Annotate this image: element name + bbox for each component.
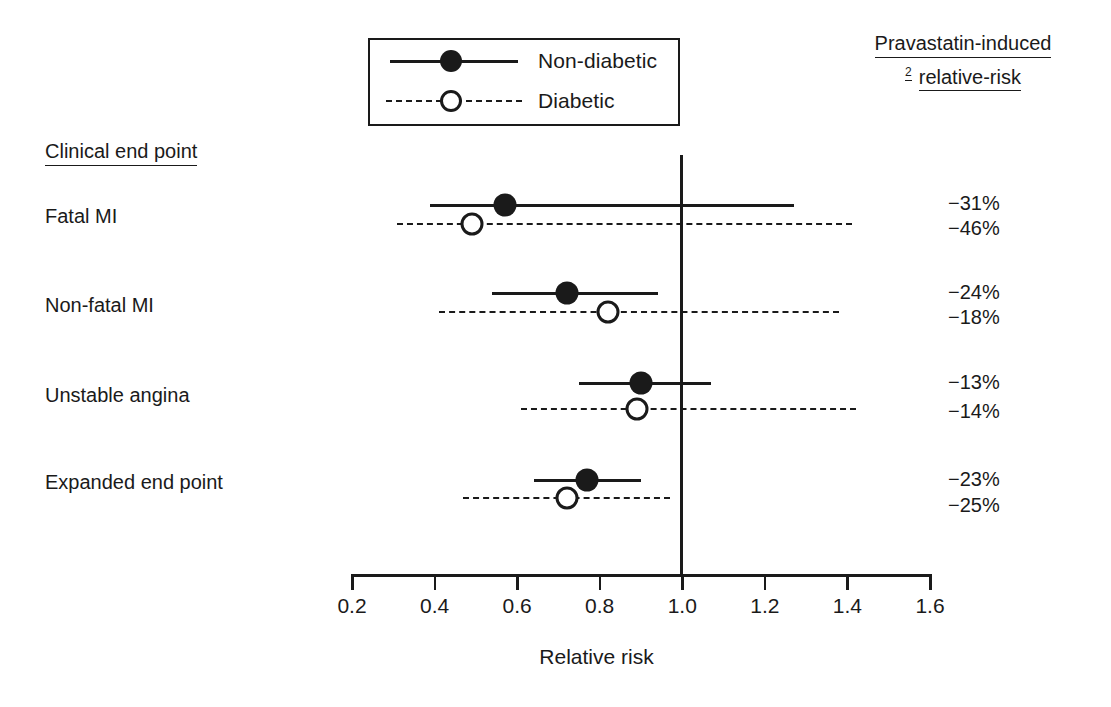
x-tick-label-1.6: 1.6 — [915, 594, 944, 618]
right-column-header: Pravastatin-induced 2relative-risk — [838, 32, 1088, 89]
x-tick-label-0.4: 0.4 — [420, 594, 449, 618]
row-label-unstable-angina: Unstable angina — [45, 384, 190, 407]
row-label-fatal-mi: Fatal MI — [45, 205, 117, 228]
right-header-line2-wrap: 2relative-risk — [838, 65, 1088, 89]
x-tick-0.6 — [516, 574, 519, 590]
percent-non-fatal-mi-non-diabetic: −24% — [948, 281, 1000, 304]
x-tick-0.4 — [434, 574, 437, 590]
x-tick-label-1.0: 1.0 — [668, 594, 697, 618]
point-marker-non-fatal-mi-diabetic — [596, 301, 619, 324]
point-marker-expanded-end-point-nondiabetic — [576, 469, 599, 492]
percent-expanded-non-diabetic: −23% — [948, 468, 1000, 491]
x-axis-title: Relative risk — [0, 645, 1111, 669]
x-axis-line — [352, 574, 930, 577]
legend: Non-diabetic Diabetic — [368, 38, 680, 126]
x-axis-title-text: Relative risk — [539, 645, 653, 668]
legend-label-non-diabetic: Non-diabetic — [538, 49, 657, 73]
x-tick-1.2 — [764, 574, 767, 590]
row-label-non-fatal-mi: Non-fatal MI — [45, 294, 154, 317]
x-tick-1.0 — [681, 574, 684, 590]
percent-non-fatal-mi-diabetic: −18% — [948, 306, 1000, 329]
ci-line-unstable-angina-diabetic — [521, 408, 855, 410]
x-tick-1.4 — [846, 574, 849, 590]
percent-fatal-mi-diabetic: −46% — [948, 217, 1000, 240]
reference-line-1 — [680, 155, 683, 575]
right-header-superscript: 2 — [905, 65, 912, 81]
percent-expanded-diabetic: −25% — [948, 494, 1000, 517]
x-tick-1.6 — [929, 574, 932, 590]
point-marker-unstable-angina-nondiabetic — [630, 372, 653, 395]
legend-sample-solid-line — [378, 40, 528, 82]
x-tick-0.8 — [599, 574, 602, 590]
point-marker-unstable-angina-diabetic — [625, 398, 648, 421]
percent-unstable-angina-non-diabetic: −13% — [948, 371, 1000, 394]
percent-unstable-angina-diabetic: −14% — [948, 400, 1000, 423]
point-marker-expanded-end-point-diabetic — [555, 487, 578, 510]
point-marker-fatal-mi-nondiabetic — [493, 194, 516, 217]
ci-line-fatal-mi-nondiabetic — [430, 204, 793, 207]
x-tick-label-0.2: 0.2 — [337, 594, 366, 618]
ci-line-non-fatal-mi-diabetic — [439, 311, 839, 313]
legend-item-non-diabetic: Non-diabetic — [370, 40, 678, 82]
x-tick-label-0.6: 0.6 — [503, 594, 532, 618]
x-tick-0.2 — [351, 574, 354, 590]
percent-fatal-mi-non-diabetic: −31% — [948, 192, 1000, 215]
right-header-line1: Pravastatin-induced — [875, 32, 1052, 58]
legend-item-diabetic: Diabetic — [370, 80, 678, 122]
legend-label-diabetic: Diabetic — [538, 89, 615, 113]
left-column-header: Clinical end point — [45, 140, 197, 166]
legend-sample-dashed-line — [378, 80, 528, 122]
point-marker-non-fatal-mi-nondiabetic — [555, 282, 578, 305]
point-marker-fatal-mi-diabetic — [460, 213, 483, 236]
x-tick-label-1.4: 1.4 — [833, 594, 862, 618]
x-tick-label-1.2: 1.2 — [750, 594, 779, 618]
x-tick-label-0.8: 0.8 — [585, 594, 614, 618]
forest-plot-figure: Non-diabetic Diabetic Pravastatin-induce… — [0, 0, 1111, 707]
filled-circle-icon — [440, 50, 462, 72]
open-circle-icon — [440, 90, 462, 112]
row-label-expanded-end-point: Expanded end point — [45, 471, 223, 494]
right-header-line2: relative-risk — [919, 66, 1021, 91]
